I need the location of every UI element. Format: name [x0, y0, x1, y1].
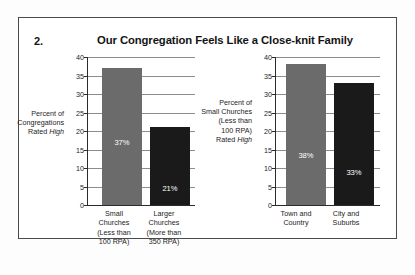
y-tickmark	[272, 187, 275, 188]
y-tickmark	[84, 205, 87, 206]
y-tickmark	[272, 150, 275, 151]
x-category-label: City andSuburbs	[315, 209, 377, 228]
page-title: Our Congregation Feels Like a Close-knit…	[75, 34, 375, 46]
y-tick-label: 25	[68, 108, 84, 117]
bar-value-label: 38%	[286, 151, 326, 160]
bar-value-label: 37%	[102, 138, 142, 147]
gridline	[87, 205, 195, 206]
x-category-label: LargerChurches(More than350 RPA)	[133, 209, 195, 247]
y-tickmark	[84, 168, 87, 169]
y-tickmark	[84, 150, 87, 151]
y-tick-label: 35	[68, 71, 84, 80]
bar[interactable]: 38%	[286, 64, 326, 205]
y-tickmark	[272, 131, 275, 132]
y-tick-label: 10	[256, 164, 272, 173]
y-tick-label: 20	[68, 127, 84, 136]
y-tick-label: 5	[256, 182, 272, 191]
y-tickmark	[84, 94, 87, 95]
y-tick-label: 10	[68, 164, 84, 173]
y-tick-label: 40	[256, 53, 272, 62]
y-tick-label: 25	[256, 108, 272, 117]
y-tick-label: 20	[256, 127, 272, 136]
y-axis-tick-labels: 0510152025303540	[68, 57, 84, 205]
bar-group: 38%33%	[276, 57, 380, 205]
y-tickmark	[84, 76, 87, 77]
y-tickmark	[272, 57, 275, 58]
y-tickmark	[84, 113, 87, 114]
chart-page: 2. Our Congregation Feels Like a Close-k…	[0, 0, 415, 275]
y-tick-label: 40	[68, 53, 84, 62]
y-tickmark	[272, 168, 275, 169]
y-tick-label: 15	[68, 145, 84, 154]
plot-area: 37%21%	[87, 57, 195, 205]
y-tick-label: 15	[256, 145, 272, 154]
y-tick-label: 0	[68, 201, 84, 210]
bar[interactable]: 37%	[102, 68, 142, 205]
plot-area: 38%33%	[275, 57, 380, 205]
y-tickmark	[272, 76, 275, 77]
y-tickmark	[272, 113, 275, 114]
y-axis-caption: Percent ofCongregationsRated High	[2, 109, 64, 137]
y-tickmark	[272, 205, 275, 206]
y-tickmark	[84, 57, 87, 58]
y-tickmark	[84, 187, 87, 188]
bar[interactable]: 33%	[334, 83, 374, 205]
y-tick-label: 35	[256, 71, 272, 80]
bar-value-label: 33%	[334, 168, 374, 177]
y-tickmark	[84, 131, 87, 132]
y-axis-caption: Percent ofSmall Churches(Less than100 RP…	[190, 98, 252, 144]
y-axis-tick-labels: 0510152025303540	[256, 57, 272, 205]
bar[interactable]: 21%	[150, 127, 190, 205]
bar-value-label: 21%	[150, 184, 190, 193]
y-tick-label: 5	[68, 182, 84, 191]
y-tick-label: 30	[68, 90, 84, 99]
item-number: 2.	[34, 35, 43, 47]
y-tick-label: 30	[256, 90, 272, 99]
gridline	[275, 205, 380, 206]
y-tickmark	[272, 94, 275, 95]
bar-group: 37%21%	[88, 57, 195, 205]
